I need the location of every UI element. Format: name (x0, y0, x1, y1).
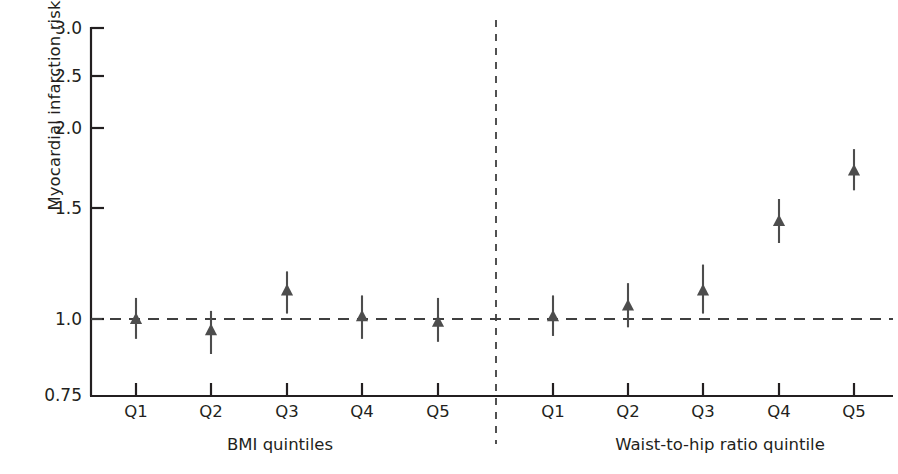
triangle-marker-icon (773, 214, 785, 226)
data-point-bmi-q3 (281, 271, 293, 313)
triangle-marker-icon (547, 310, 559, 322)
data-point-whr-q2 (622, 283, 634, 327)
data-point-whr-q5 (848, 149, 860, 190)
triangle-marker-icon (281, 284, 293, 296)
data-point-bmi-q2 (205, 311, 217, 354)
x-tick-label-bmi-q4: Q4 (339, 404, 385, 421)
triangle-marker-icon (848, 164, 860, 176)
x-tick-label-bmi-q3: Q3 (264, 404, 310, 421)
triangle-marker-icon (697, 284, 709, 296)
x-tick-label-whr-q5: Q5 (831, 404, 877, 421)
x-tick-label-whr-q3: Q3 (680, 404, 726, 421)
data-point-whr-q4 (773, 199, 785, 243)
x-tick-label-bmi-q5: Q5 (415, 404, 461, 421)
x-tick-label-bmi-q1: Q1 (113, 404, 159, 421)
x-axis-ticks (136, 383, 854, 396)
triangle-marker-icon (432, 315, 444, 327)
y-axis-ticks (91, 28, 104, 319)
x-tick-label-bmi-q2: Q2 (188, 404, 234, 421)
x-tick-label-whr-q2: Q2 (605, 404, 651, 421)
data-point-whr-q1 (547, 295, 559, 336)
x-tick-label-whr-q4: Q4 (756, 404, 802, 421)
data-point-bmi-q4 (356, 295, 368, 338)
panel-label-bmi: BMI quintiles (180, 437, 380, 454)
triangle-marker-icon (622, 299, 634, 311)
chart-figure: Myocardial infarction risk 3.0 2.5 2.0 1… (0, 0, 898, 474)
data-series-layer (130, 149, 860, 354)
triangle-marker-icon (356, 310, 368, 322)
panel-label-whr: Waist-to-hip ratio quintile (580, 437, 860, 454)
data-point-whr-q3 (697, 265, 709, 314)
x-tick-label-whr-q1: Q1 (530, 404, 576, 421)
triangle-marker-icon (205, 324, 217, 336)
